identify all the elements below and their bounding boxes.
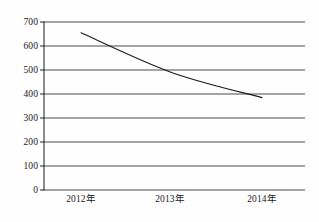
x-axis-label-2014: 2014年 (232, 194, 292, 205)
y-axis-label-500: 500 (4, 65, 38, 75)
x-axis-label-2013: 2013年 (140, 194, 200, 205)
y-axis (40, 22, 44, 191)
gridlines (44, 22, 305, 190)
x-axis-label-2012: 2012年 (51, 194, 111, 205)
line-chart: 700 600 500 400 300 200 100 0 2012年 2013… (0, 0, 319, 222)
data-series-line (81, 33, 262, 98)
y-axis-label-400: 400 (4, 89, 38, 99)
y-axis-label-600: 600 (4, 41, 38, 51)
chart-canvas (0, 0, 319, 222)
y-axis-label-200: 200 (4, 137, 38, 147)
y-axis-label-700: 700 (4, 17, 38, 27)
y-axis-label-0: 0 (4, 185, 38, 195)
y-axis-label-300: 300 (4, 113, 38, 123)
y-axis-label-100: 100 (4, 161, 38, 171)
series-path-0 (81, 33, 262, 98)
